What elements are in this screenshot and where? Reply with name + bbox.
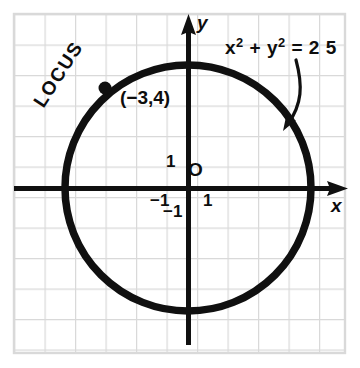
tick-label-y-negative: −1 [163, 203, 182, 220]
equation-exponent-y: 2 [278, 35, 286, 50]
equation-exponent-x: 2 [236, 35, 244, 50]
equation-middle: + y [244, 37, 278, 58]
axis-label-x: x [331, 196, 342, 215]
tick-label-y-positive: 1 [166, 153, 175, 170]
equation-label: x2 + y2 = 2 5 [225, 38, 337, 57]
point-coordinate-label: (−3,4) [120, 88, 170, 107]
equation-tail: = 2 5 [286, 37, 337, 58]
locus-circle-figure: y x O 1 1 −1 −1 (−3,4) LOCUS x2 + y2 = 2… [0, 0, 360, 368]
equation-base: x [225, 37, 236, 58]
axis-label-y: y [197, 13, 208, 32]
plotted-point [99, 82, 112, 95]
tick-label-x-positive: 1 [203, 192, 212, 209]
origin-label: O [188, 160, 203, 179]
